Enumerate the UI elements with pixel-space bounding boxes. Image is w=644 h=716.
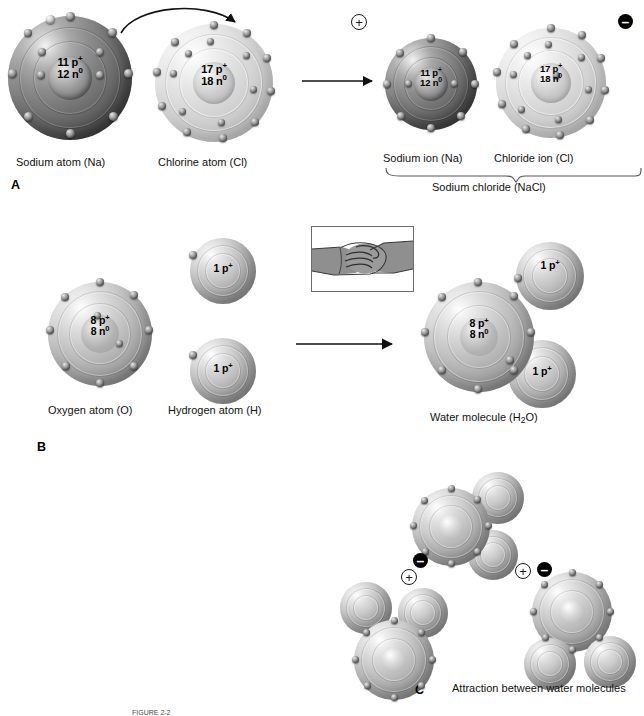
figure-caption: FIGURE 2-2 (132, 709, 552, 716)
valence-electron (46, 15, 55, 24)
wc-right-h2 (584, 636, 636, 688)
wc-left-o (354, 620, 434, 700)
chlorine-atom-label: Chlorine atom (Cl) (158, 156, 247, 168)
chlorine-atom: 17 p+ 18 n0 (155, 24, 273, 142)
oxygen-atom-label: Oxygen atom (O) (48, 404, 132, 416)
sodium-ion-label: Sodium ion (Na) (383, 152, 462, 164)
charge-badge-negative-right: – (537, 562, 552, 577)
transferred-electron (553, 72, 560, 79)
sodium-ion-charge-badge: + (351, 14, 367, 30)
water-oxygen: 8 p+ 8 n0 (424, 282, 534, 392)
wc-right-o (532, 572, 612, 652)
sodium-chloride-label: Sodium chloride (NaCl) (432, 181, 546, 193)
chloride-ion-label: Chloride ion (Cl) (494, 152, 573, 164)
sodium-atom: 11 p+ 12 n0 (8, 16, 132, 140)
handshake-inset (311, 226, 414, 292)
hydrogen-atom-label: Hydrogen atom (H) (168, 404, 262, 416)
nacl-brace (386, 168, 641, 182)
sodium-ion: 11 p+ 12 n0 (385, 38, 477, 130)
panel-c-label: Attraction between water molecules (452, 682, 626, 694)
hydrogen-atom-2: 1 p+ (190, 338, 256, 404)
charge-badge-positive-left: + (401, 569, 417, 585)
charge-badge-negative-left: – (413, 553, 428, 568)
hydrogen-atom-1: 1 p+ (190, 238, 256, 304)
charge-badge-positive-right: + (515, 563, 531, 579)
handshake-icon (312, 227, 413, 291)
panel-letter-b: B (37, 440, 46, 454)
chloride-ion-charge-badge: – (618, 14, 633, 29)
panel-letter-a: A (11, 178, 20, 192)
figure-chemical-bonding: 11 p+ 12 n0 Sodium atom (Na) 17 (0, 0, 644, 716)
chloride-ion: 17 p+ 18 n0 (496, 28, 606, 138)
water-molecule-label: Water molecule (H2O) (430, 411, 538, 425)
sodium-atom-label: Sodium atom (Na) (16, 156, 105, 168)
oxygen-atom: 8 p+ 8 n0 (48, 282, 152, 386)
water-hydrogen-1: 1 p+ (516, 242, 584, 310)
